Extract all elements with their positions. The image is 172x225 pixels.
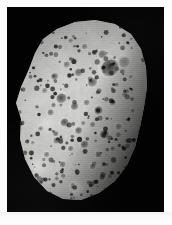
image-page	[0, 0, 172, 225]
paper-tint	[0, 212, 172, 225]
micro-crater	[25, 191, 27, 193]
micro-crater	[141, 38, 144, 41]
micro-crater	[49, 21, 54, 26]
micro-crater	[133, 32, 135, 34]
micro-crater	[19, 55, 22, 58]
micro-crater	[57, 24, 60, 27]
micro-crater	[17, 161, 20, 164]
moon-svg	[7, 7, 164, 212]
micro-crater	[133, 189, 135, 191]
micro-crater	[32, 192, 37, 197]
micro-crater	[143, 148, 144, 149]
micro-crater	[18, 189, 20, 191]
micro-crater	[135, 153, 139, 157]
micro-crater	[48, 196, 52, 200]
moon-image	[7, 7, 164, 212]
moon-body	[7, 7, 164, 212]
micro-crater	[120, 178, 122, 180]
micro-crater	[19, 158, 23, 162]
space-background	[7, 7, 164, 212]
micro-crater	[132, 174, 137, 179]
micro-crater	[42, 35, 45, 38]
micro-crater	[17, 72, 22, 77]
micro-crater	[140, 129, 142, 131]
micro-crater	[114, 188, 117, 191]
micro-crater	[24, 165, 26, 167]
micro-crater	[17, 61, 21, 65]
micro-crater	[137, 164, 142, 169]
micro-crater	[28, 46, 33, 51]
micro-crater	[30, 35, 32, 37]
micro-crater	[24, 27, 29, 32]
micro-crater	[141, 148, 144, 151]
micro-crater	[17, 39, 20, 42]
micro-crater	[25, 52, 28, 55]
micro-crater	[131, 158, 136, 163]
micro-crater	[22, 193, 25, 196]
micro-crater	[134, 174, 136, 176]
micro-crater	[136, 36, 141, 41]
micro-crater	[18, 24, 22, 28]
micro-crater	[138, 30, 143, 35]
micro-crater	[32, 189, 35, 192]
micro-crater	[137, 182, 142, 187]
micro-crater	[25, 184, 29, 188]
